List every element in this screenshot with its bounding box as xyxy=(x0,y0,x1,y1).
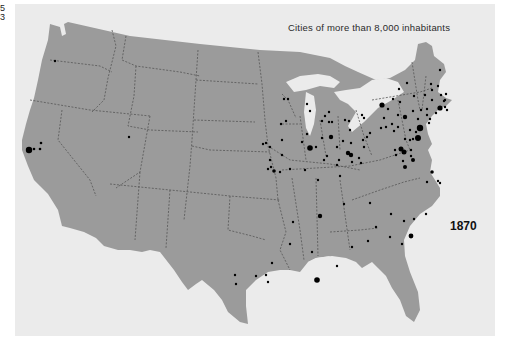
map-year-label: 1870 xyxy=(450,219,477,233)
us-landmass xyxy=(22,22,452,324)
us-map xyxy=(0,0,508,344)
map-title: Cities of more than 8,000 inhabitants xyxy=(288,22,450,33)
